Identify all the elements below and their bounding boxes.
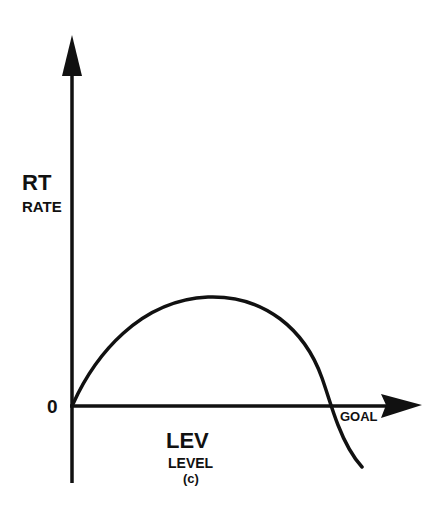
goal-label: GOAL: [340, 410, 378, 423]
x-axis-abbrev: LEV: [166, 430, 209, 452]
y-axis-arrowhead-icon: [62, 35, 82, 76]
y-axis: [62, 35, 82, 483]
x-axis-arrowhead-icon: [381, 394, 422, 418]
x-axis-label: LEVEL: [168, 456, 213, 470]
panel-label: (c): [183, 472, 199, 485]
y-axis-abbrev: RT: [22, 172, 51, 194]
rate-curve: [73, 297, 362, 467]
y-axis-label: RATE: [22, 199, 62, 214]
origin-label: 0: [47, 397, 58, 416]
diagram-canvas: [0, 0, 446, 516]
